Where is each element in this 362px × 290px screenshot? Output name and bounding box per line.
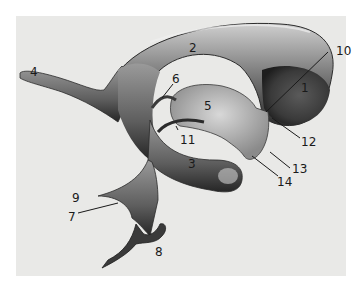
label-4: 4 [30, 66, 38, 78]
fourth-ventricle [98, 160, 158, 236]
label-10: 10 [336, 45, 351, 57]
label-1: 1 [301, 82, 309, 94]
label-8: 8 [155, 246, 163, 258]
label-13: 13 [292, 163, 307, 175]
label-2: 2 [189, 42, 197, 54]
third-ventricle [170, 85, 268, 160]
label-9: 9 [72, 192, 80, 204]
label-6: 6 [172, 73, 180, 85]
label-7: 7 [68, 211, 76, 223]
label-5: 5 [204, 100, 212, 112]
label-3: 3 [188, 158, 196, 170]
label-12: 12 [301, 136, 316, 148]
label-11: 11 [180, 134, 195, 146]
label-14: 14 [277, 176, 292, 188]
